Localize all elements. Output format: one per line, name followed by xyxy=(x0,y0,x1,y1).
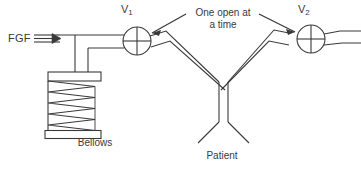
valve-2-label: V2 xyxy=(298,4,310,18)
bellows-top-plate xyxy=(48,72,101,81)
bellows-outlet-pipe xyxy=(88,48,124,72)
annotation-leader-right xyxy=(259,14,295,35)
fgf-label: FGF xyxy=(8,33,31,44)
breathing-limb-a xyxy=(150,31,225,90)
diagram-canvas xyxy=(0,0,361,171)
valve-1-label: V1 xyxy=(121,4,133,18)
valve-2-outlet-lines xyxy=(324,31,361,45)
fgf-flow-arrow xyxy=(34,34,61,44)
annotation-line-1: One open at xyxy=(195,7,250,18)
one-open-at-a-time-annotation: One open ata time xyxy=(188,7,258,31)
patient-label: Patient xyxy=(192,150,252,161)
annotation-line-2: a time xyxy=(209,19,236,30)
valve-1-subscript: 1 xyxy=(128,8,132,17)
bellows-folds xyxy=(48,81,95,131)
patient-y-piece xyxy=(198,122,249,143)
annotation-leader-left xyxy=(152,14,186,36)
valve-2-symbol xyxy=(297,25,325,53)
valve-1-symbol xyxy=(123,27,151,55)
breathing-limb-b xyxy=(221,30,289,90)
valve-2-subscript: 2 xyxy=(305,8,309,17)
anesthesia-circuit-diagram: FGF V1 V2 One open ata time Bellows Pati… xyxy=(0,0,361,171)
bellows-label: Bellows xyxy=(60,137,130,148)
